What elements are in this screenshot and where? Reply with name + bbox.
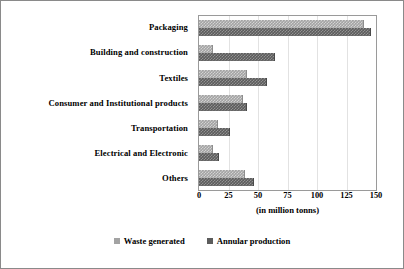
legend-item-annular-production: Annular production bbox=[207, 237, 290, 246]
x-axis-tick-label: 25 bbox=[224, 192, 232, 200]
category-label: Electrical and Electronic bbox=[94, 149, 188, 158]
bar-annular-production bbox=[199, 103, 247, 111]
category-tick: Consumer and Institutional products bbox=[7, 90, 193, 115]
legend-swatch-icon bbox=[207, 238, 213, 244]
bar-group bbox=[199, 66, 376, 91]
category-label: Consumer and Institutional products bbox=[48, 99, 188, 108]
bar-waste-generated bbox=[199, 45, 213, 53]
bar-group bbox=[199, 140, 376, 165]
plot-area bbox=[198, 15, 377, 191]
x-axis-title: (in million tonns) bbox=[198, 206, 377, 215]
bar-waste-generated bbox=[199, 120, 218, 128]
legend-item-waste-generated: Waste generated bbox=[114, 237, 185, 246]
category-tick: Building and construction bbox=[7, 40, 193, 65]
x-axis-tick-label: 100 bbox=[311, 192, 324, 200]
bar-group bbox=[199, 115, 376, 140]
category-label: Others bbox=[162, 174, 188, 183]
x-axis-tick-label: 125 bbox=[340, 192, 353, 200]
category-label: Building and construction bbox=[90, 48, 188, 57]
category-axis: Packaging Building and construction Text… bbox=[7, 15, 193, 191]
x-axis-tick-label: 75 bbox=[283, 192, 291, 200]
bar-waste-generated bbox=[199, 145, 213, 153]
bar-annular-production bbox=[199, 78, 267, 86]
bar-waste-generated bbox=[199, 70, 247, 78]
x-axis-tick-label: 0 bbox=[197, 192, 201, 200]
chart-legend: Waste generated Annular production bbox=[1, 237, 403, 246]
bar-annular-production bbox=[199, 53, 275, 61]
bar-series-container bbox=[199, 16, 376, 190]
category-label: Packaging bbox=[149, 23, 188, 32]
bar-annular-production bbox=[199, 178, 254, 186]
x-axis-tick-label: 50 bbox=[254, 192, 262, 200]
category-label: Textiles bbox=[159, 74, 188, 83]
bar-group bbox=[199, 41, 376, 66]
bar-group bbox=[199, 16, 376, 41]
bar-waste-generated bbox=[199, 170, 245, 178]
legend-label: Annular production bbox=[217, 237, 290, 246]
category-tick: Textiles bbox=[7, 65, 193, 90]
bar-annular-production bbox=[199, 28, 371, 36]
legend-swatch-icon bbox=[114, 238, 120, 244]
bar-waste-generated bbox=[199, 95, 243, 103]
x-axis: 0255075100125150 bbox=[198, 192, 377, 205]
category-tick: Transportation bbox=[7, 116, 193, 141]
category-tick: Electrical and Electronic bbox=[7, 141, 193, 166]
chart-figure: Packaging Building and construction Text… bbox=[0, 0, 404, 269]
legend-label: Waste generated bbox=[124, 237, 185, 246]
bar-group bbox=[199, 91, 376, 116]
bar-group bbox=[199, 165, 376, 190]
x-axis-tick-label: 150 bbox=[370, 192, 383, 200]
category-tick: Packaging bbox=[7, 15, 193, 40]
bar-waste-generated bbox=[199, 20, 364, 28]
bar-annular-production bbox=[199, 128, 230, 136]
category-tick: Others bbox=[7, 166, 193, 191]
category-label: Transportation bbox=[131, 124, 188, 133]
bar-annular-production bbox=[199, 153, 219, 161]
